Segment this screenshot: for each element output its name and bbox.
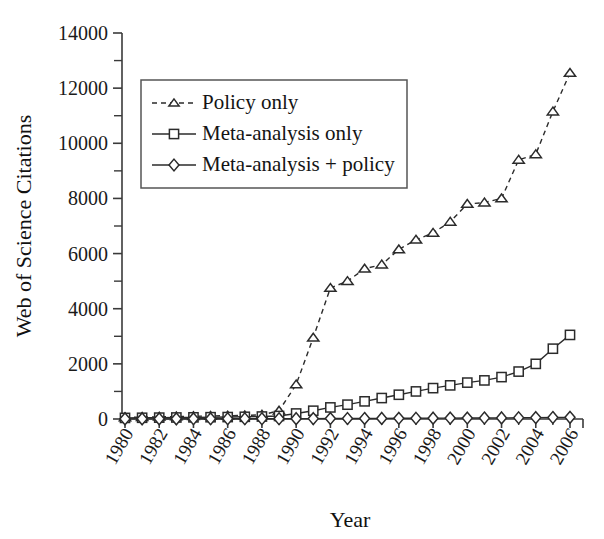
data-point-diamond bbox=[497, 412, 507, 424]
data-point-square bbox=[548, 344, 557, 353]
data-point-diamond bbox=[411, 412, 421, 424]
y-tick-label: 6000 bbox=[68, 243, 108, 265]
data-point-square bbox=[446, 381, 455, 390]
x-tick-label: 1992 bbox=[306, 425, 343, 468]
data-point-diamond bbox=[514, 412, 524, 424]
data-point-triangle bbox=[445, 217, 456, 225]
data-point-square bbox=[565, 330, 574, 339]
data-point-square bbox=[394, 390, 403, 399]
data-point-triangle bbox=[564, 69, 575, 77]
data-point-triangle bbox=[530, 150, 541, 158]
x-tick-label: 1984 bbox=[169, 424, 206, 468]
y-tick-label: 10000 bbox=[58, 132, 108, 154]
data-point-triangle bbox=[393, 245, 404, 253]
y-axis-group: 02000400060008000100001200014000 Web of … bbox=[11, 22, 122, 430]
data-point-triangle bbox=[325, 284, 336, 292]
y-tick-label: 4000 bbox=[68, 298, 108, 320]
x-tick-label: 1982 bbox=[135, 425, 172, 468]
data-point-triangle bbox=[427, 228, 438, 236]
data-point-square bbox=[360, 397, 369, 406]
x-tick-label: 1996 bbox=[374, 425, 411, 468]
data-point-square bbox=[497, 372, 506, 381]
x-tick-label: 1994 bbox=[340, 424, 377, 468]
data-point-diamond bbox=[462, 412, 472, 424]
data-point-triangle bbox=[342, 277, 353, 285]
y-axis-title: Web of Science Citations bbox=[11, 115, 36, 337]
data-point-diamond bbox=[343, 413, 353, 425]
x-tick-label: 2004 bbox=[511, 424, 548, 468]
chart-page: 02000400060008000100001200014000 Web of … bbox=[0, 0, 604, 539]
data-point-triangle bbox=[308, 333, 319, 341]
x-tick-label: 1988 bbox=[237, 425, 274, 468]
x-tick-label: 1990 bbox=[271, 425, 308, 468]
series-2 bbox=[120, 330, 574, 422]
data-point-diamond bbox=[377, 413, 387, 425]
data-point-triangle bbox=[462, 199, 473, 207]
x-tick-label: 2006 bbox=[545, 425, 582, 468]
data-point-diamond bbox=[531, 412, 541, 424]
x-tick-label: 1980 bbox=[100, 425, 137, 468]
y-tick-label: 12000 bbox=[58, 77, 108, 99]
data-point-diamond bbox=[479, 412, 489, 424]
x-axis-group: 1980198219841986198819901992199419961998… bbox=[100, 419, 583, 532]
data-point-diamond bbox=[428, 412, 438, 424]
data-point-square bbox=[463, 378, 472, 387]
data-point-diamond bbox=[565, 411, 575, 423]
data-point-diamond bbox=[445, 412, 455, 424]
x-axis-tick-labels: 1980198219841986198819901992199419961998… bbox=[100, 424, 582, 468]
data-point-triangle bbox=[496, 194, 507, 202]
legend-label: Policy only bbox=[202, 90, 299, 114]
data-point-square bbox=[531, 359, 540, 368]
citations-line-chart: 02000400060008000100001200014000 Web of … bbox=[0, 0, 604, 539]
data-point-square bbox=[326, 403, 335, 412]
x-tick-label: 1998 bbox=[408, 425, 445, 468]
legend-label: Meta-analysis only bbox=[202, 121, 363, 145]
data-point-square bbox=[480, 376, 489, 385]
y-tick-label: 8000 bbox=[68, 187, 108, 209]
y-axis-ticks bbox=[113, 33, 122, 419]
x-axis-title: Year bbox=[330, 507, 371, 532]
y-tick-label: 0 bbox=[98, 408, 108, 430]
data-point-triangle bbox=[291, 380, 302, 388]
data-point-triangle bbox=[547, 107, 558, 115]
data-point-square bbox=[514, 367, 523, 376]
legend-label: Meta-analysis + policy bbox=[202, 152, 395, 176]
y-tick-label: 2000 bbox=[68, 353, 108, 375]
y-axis-tick-labels: 02000400060008000100001200014000 bbox=[58, 22, 108, 430]
data-point-square bbox=[428, 384, 437, 393]
data-point-square bbox=[343, 400, 352, 409]
data-point-triangle bbox=[376, 260, 387, 268]
data-point-diamond bbox=[394, 412, 404, 424]
data-point-square bbox=[169, 129, 178, 138]
data-point-diamond bbox=[548, 412, 558, 424]
x-tick-label: 1986 bbox=[203, 425, 240, 468]
x-tick-label: 2000 bbox=[443, 425, 480, 468]
data-point-square bbox=[377, 393, 386, 402]
y-tick-label: 14000 bbox=[58, 22, 108, 44]
x-tick-label: 2002 bbox=[477, 425, 514, 468]
data-point-diamond bbox=[360, 413, 370, 425]
legend: Policy onlyMeta-analysis onlyMeta-analys… bbox=[141, 80, 407, 188]
data-point-diamond bbox=[325, 413, 335, 425]
data-point-triangle bbox=[359, 264, 370, 272]
data-point-square bbox=[411, 387, 420, 396]
data-point-triangle bbox=[410, 235, 421, 243]
